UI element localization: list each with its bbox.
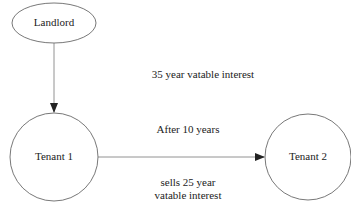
lease-interest-label: 35 year vatable interest xyxy=(128,68,278,81)
tenant2-label: Tenant 2 xyxy=(268,150,348,163)
sells-interest-label-line2: vatable interest xyxy=(128,189,248,202)
tenant1-label: Tenant 1 xyxy=(14,150,94,163)
sells-interest-label-line1: sells 25 year xyxy=(128,176,248,189)
landlord-label: Landlord xyxy=(14,16,94,29)
after-years-label: After 10 years xyxy=(128,123,248,136)
